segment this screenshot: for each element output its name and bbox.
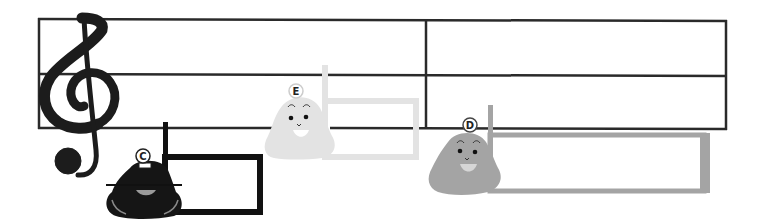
bell-d: D xyxy=(429,105,710,195)
note-label-d: D xyxy=(466,120,474,131)
staff-line-top xyxy=(38,19,727,21)
bell-e: E xyxy=(265,65,416,160)
note-label-e: E xyxy=(293,86,300,97)
bell-d-handle-box xyxy=(490,135,704,191)
staff-line-middle xyxy=(38,74,727,76)
music-worksheet: C E D xyxy=(0,0,757,220)
bell-c: C xyxy=(106,122,260,219)
bell-d-handle-right xyxy=(700,133,710,193)
staff xyxy=(38,18,727,130)
staff-line-bottom-right xyxy=(330,128,727,129)
note-label-c: C xyxy=(139,151,146,162)
treble-clef-icon xyxy=(44,18,114,175)
